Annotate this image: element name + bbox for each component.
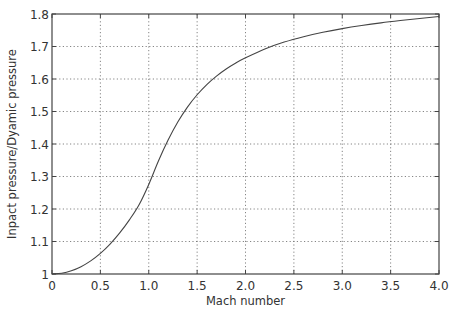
x-tick-label: 3.0 [333, 279, 352, 293]
y-tick-label: 1.2 [30, 203, 49, 217]
y-axis-tick-labels: 11.11.21.31.41.51.61.71.8 [30, 8, 49, 282]
y-tick-label: 1.8 [30, 8, 49, 22]
x-tick-label: 1.0 [139, 279, 158, 293]
data-curve [52, 17, 439, 274]
x-tick-label: 0.5 [91, 279, 110, 293]
x-tick-label: 1.5 [188, 279, 207, 293]
x-tick-label: 4.0 [429, 279, 448, 293]
x-tick-label: 2.0 [236, 279, 255, 293]
grid-lines [52, 14, 439, 274]
y-axis-label: Inpact pressure/Dyamic pressure [5, 49, 19, 239]
y-tick-label: 1.5 [30, 105, 49, 119]
y-tick-label: 1.1 [30, 235, 49, 249]
x-tick-label: 3.5 [381, 279, 400, 293]
x-tick-label: 0 [48, 279, 56, 293]
x-tick-label: 2.5 [284, 279, 303, 293]
x-axis-tick-labels: 00.51.01.52.02.53.03.54.0 [48, 279, 448, 293]
y-tick-label: 1.4 [30, 138, 49, 152]
chart: 00.51.01.52.02.53.03.54.0 11.11.21.31.41… [0, 0, 453, 312]
y-tick-label: 1.7 [30, 40, 49, 54]
y-tick-label: 1.3 [30, 170, 49, 184]
y-tick-label: 1 [41, 268, 49, 282]
y-tick-label: 1.6 [30, 73, 49, 87]
x-axis-label: Mach number [206, 294, 285, 308]
